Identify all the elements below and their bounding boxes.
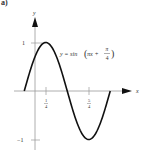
y-axis-arrow-icon [32, 17, 38, 27]
x-tick-label-2-den: 4 [88, 104, 91, 109]
x-tick-label-2-num: 5 [88, 98, 91, 103]
sine-chart: a) x y 1 −1 1 4 5 4 y = sin ( πx + π 4 ) [0, 0, 143, 152]
x-axis-arrow-icon [122, 88, 132, 94]
y-tick-label-neg1: −1 [17, 137, 23, 143]
y-axis-label: y [32, 10, 36, 16]
svg-text:π: π [106, 46, 109, 52]
x-tick-label-1-den: 4 [45, 104, 48, 109]
x-tick-label-1-num: 1 [45, 98, 47, 103]
svg-text:πx +: πx + [87, 50, 99, 57]
svg-text:y = sin: y = sin [59, 50, 77, 57]
y-tick-label-1: 1 [22, 40, 25, 46]
x-axis-label: x [135, 88, 139, 94]
panel-label: a) [1, 0, 8, 7]
svg-text:4: 4 [106, 55, 109, 61]
right-paren: ) [111, 48, 114, 60]
equation-label: y = sin ( πx + π 4 ) [59, 46, 114, 61]
